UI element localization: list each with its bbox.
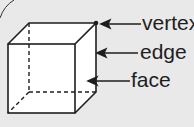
corner-arc — [0, 0, 14, 18]
label-edge: edge — [140, 41, 187, 62]
cube-diagram: vertex edge face — [0, 0, 194, 127]
label-vertex: vertex — [142, 12, 194, 33]
vertex-dot — [94, 21, 99, 26]
label-face: face — [131, 69, 171, 90]
